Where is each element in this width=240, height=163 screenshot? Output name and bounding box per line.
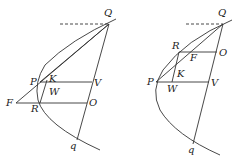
left-label-q: q [70, 141, 76, 151]
right-line-Qq [193, 24, 223, 144]
left-label-P: P [30, 77, 37, 87]
right-label-W: W [167, 84, 177, 94]
left-label-W: W [49, 87, 59, 97]
right-label-q: q [188, 145, 194, 155]
left-label-O: O [89, 98, 97, 108]
right-label-P: P [147, 77, 154, 87]
right-label-O: O [219, 48, 227, 58]
right-label-V: V [211, 78, 218, 88]
left-label-Q: Q [104, 8, 112, 18]
diagram: Q P K W V F R O q Q R F O K P W V q [0, 0, 240, 163]
right-label-F: F [190, 53, 197, 63]
left-label-F: F [6, 98, 13, 108]
left-label-R: R [31, 104, 39, 114]
right-label-R: R [172, 41, 180, 51]
left-label-K: K [49, 74, 56, 84]
left-parabola [37, 19, 116, 150]
left-line-KR [40, 80, 47, 103]
left-label-V: V [94, 78, 101, 88]
right-label-K: K [177, 69, 184, 79]
right-label-Q: Q [218, 8, 226, 18]
